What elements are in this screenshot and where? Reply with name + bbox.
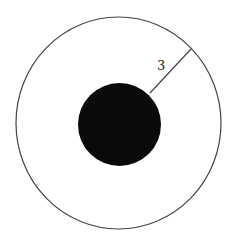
annulus-diagram: 3 (0, 0, 236, 239)
segment-length-label: 3 (157, 58, 165, 73)
inner-filled-circle (78, 83, 161, 166)
